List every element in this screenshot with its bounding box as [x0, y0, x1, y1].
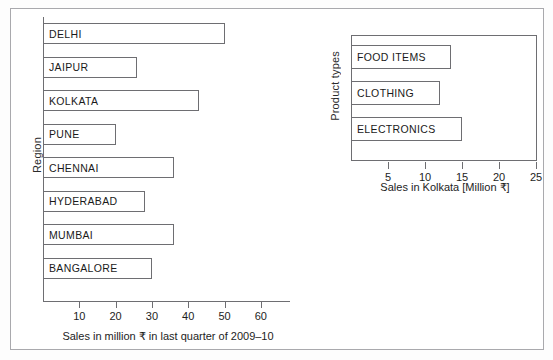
x-tick-mark	[462, 162, 463, 169]
x-tick-mark	[388, 162, 389, 169]
x-tick-label: 40	[175, 310, 201, 322]
x-tick-mark	[499, 162, 500, 169]
figure-page: Region DELHIJAIPURKOLKATAPUNECHENNAIHYDE…	[0, 0, 553, 360]
bar-label: FOOD ITEMS	[352, 51, 426, 63]
x-tick-mark	[536, 162, 537, 169]
bar-delhi: DELHI	[43, 23, 225, 44]
x-tick-mark	[261, 301, 262, 308]
bar-label: KOLKATA	[44, 95, 98, 107]
bar-label: ELECTRONICS	[352, 123, 436, 135]
kolkata-product-sales-chart: Product types FOOD ITEMSCLOTHINGELECTRON…	[329, 23, 553, 213]
bar-bangalore: BANGALORE	[43, 258, 152, 279]
x-tick-mark	[225, 301, 226, 308]
bar-jaipur: JAIPUR	[43, 57, 137, 78]
x-tick-mark	[116, 301, 117, 308]
bar-mumbai: MUMBAI	[43, 224, 174, 245]
x-tick-label: 50	[212, 310, 238, 322]
bar-label: CHENNAI	[44, 162, 99, 174]
bar-food-items: FOOD ITEMS	[351, 45, 451, 69]
x-tick-mark	[79, 301, 80, 308]
right-chart-x-axis-title: Sales in Kolkata [Million ₹]	[345, 181, 545, 194]
left-chart-x-axis-title: Sales in million ₹ in last quarter of 20…	[33, 330, 303, 343]
bar-label: PUNE	[44, 128, 80, 140]
bar-label: BANGALORE	[44, 262, 118, 274]
bar-kolkata: KOLKATA	[43, 90, 199, 111]
bar-hyderabad: HYDERABAD	[43, 191, 145, 212]
bar-clothing: CLOTHING	[351, 81, 440, 105]
bar-pune: PUNE	[43, 124, 116, 145]
x-tick-label: 30	[139, 310, 165, 322]
x-tick-mark	[152, 301, 153, 308]
x-tick-label: 10	[66, 310, 92, 322]
regional-sales-chart: Region DELHIJAIPURKOLKATAPUNECHENNAIHYDE…	[11, 9, 341, 360]
bar-label: DELHI	[44, 28, 82, 40]
x-tick-label: 60	[248, 310, 274, 322]
x-tick-mark	[188, 301, 189, 308]
left-chart-y-axis-label: Region	[31, 137, 43, 173]
bar-label: CLOTHING	[352, 87, 414, 99]
x-tick-mark	[425, 162, 426, 169]
bar-label: JAIPUR	[44, 61, 88, 73]
bar-electronics: ELECTRONICS	[351, 117, 462, 141]
figure-frame: Region DELHIJAIPURKOLKATAPUNECHENNAIHYDE…	[10, 8, 544, 350]
right-chart-y-axis-label: Product types	[329, 51, 341, 121]
bar-label: HYDERABAD	[44, 195, 118, 207]
bar-chennai: CHENNAI	[43, 157, 174, 178]
bar-label: MUMBAI	[44, 229, 93, 241]
x-tick-label: 20	[103, 310, 129, 322]
